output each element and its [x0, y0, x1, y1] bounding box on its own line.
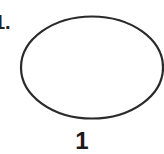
shape-caption: 1: [0, 128, 164, 154]
